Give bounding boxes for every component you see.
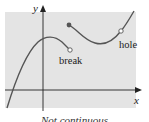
- graph-svg: y x break hole: [0, 0, 149, 122]
- y-axis-label: y: [32, 2, 38, 14]
- figure-caption: Not continuous: [0, 114, 149, 122]
- hole-label: hole: [119, 39, 137, 50]
- break-label: break: [59, 55, 83, 66]
- jump-closed-point: [67, 23, 72, 28]
- x-axis-label: x: [133, 94, 139, 106]
- discontinuity-figure: y x break hole Not continuous: [0, 0, 149, 122]
- hole-open-point: [119, 29, 123, 33]
- x-axis-arrow-icon: [135, 87, 142, 93]
- y-axis-arrow-icon: [40, 5, 46, 12]
- break-open-point: [68, 48, 72, 52]
